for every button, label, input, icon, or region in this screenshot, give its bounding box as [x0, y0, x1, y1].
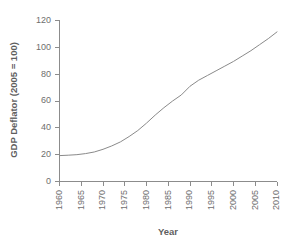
x-axis-title: Year — [158, 226, 178, 237]
x-tick-label: 2010 — [271, 190, 281, 210]
gdp-deflator-line-chart: 0 20 40 60 80 100 120 1960 1965 1970 — [0, 0, 290, 243]
y-tick-label: 100 — [36, 42, 51, 52]
x-tick-label: 1975 — [119, 190, 129, 210]
x-tick-label: 1960 — [54, 190, 64, 210]
x-tick-label: 1965 — [76, 190, 86, 210]
x-tick-label: 1995 — [206, 190, 216, 210]
y-tick-label: 80 — [41, 69, 51, 79]
x-tick-label: 1970 — [97, 190, 107, 210]
y-tick-label: 40 — [41, 122, 51, 132]
x-tick-label: 2005 — [250, 190, 260, 210]
x-tick-label: 1990 — [184, 190, 194, 210]
x-tick-label: 1980 — [141, 190, 151, 210]
x-tick-label: 2000 — [228, 190, 238, 210]
y-tick-label: 120 — [36, 15, 51, 25]
y-tick-label: 0 — [46, 176, 51, 186]
y-tick-label: 60 — [41, 95, 51, 105]
chart-figure: 0 20 40 60 80 100 120 1960 1965 1970 — [0, 0, 290, 243]
y-tick-label: 20 — [41, 149, 51, 159]
x-tick-label: 1985 — [163, 190, 173, 210]
y-axis-title: GDP Deflator (2005 = 100) — [8, 42, 19, 158]
